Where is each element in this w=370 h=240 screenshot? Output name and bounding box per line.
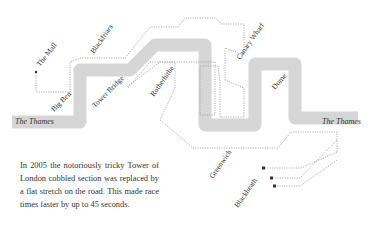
landmark-rotherhithe: Rotherhithe <box>148 63 176 98</box>
start-marker-icon <box>262 167 265 170</box>
start-marker-icon <box>273 185 276 188</box>
river-label-right: The Thames <box>322 117 361 126</box>
thames-river <box>12 45 358 125</box>
landmark-dome: Dome <box>270 71 289 91</box>
landmark-blackheath: Blackheath <box>232 176 259 209</box>
landmark-big-ben: Big Ben <box>49 89 73 113</box>
the-mall-marker-icon <box>35 71 37 73</box>
landmark-the-mall: The Mall <box>34 41 58 68</box>
route-segment-blackheath-b <box>272 140 337 178</box>
info-note: In 2005 the notoriously tricky Tower of … <box>20 159 159 211</box>
route-segment-blackheath-c <box>275 160 337 186</box>
landmark-tower-bridge: Tower Bridge <box>90 73 126 109</box>
landmark-greenwich: Greenwich <box>207 148 233 180</box>
route-segment-blackheath-a <box>263 152 337 168</box>
river-label-left: The Thames <box>15 117 54 126</box>
landmark-blackfriars: Blackfriars <box>88 23 115 56</box>
landmark-canary-wharf: Canary Wharf <box>234 21 266 61</box>
start-marker-icon <box>270 177 273 180</box>
